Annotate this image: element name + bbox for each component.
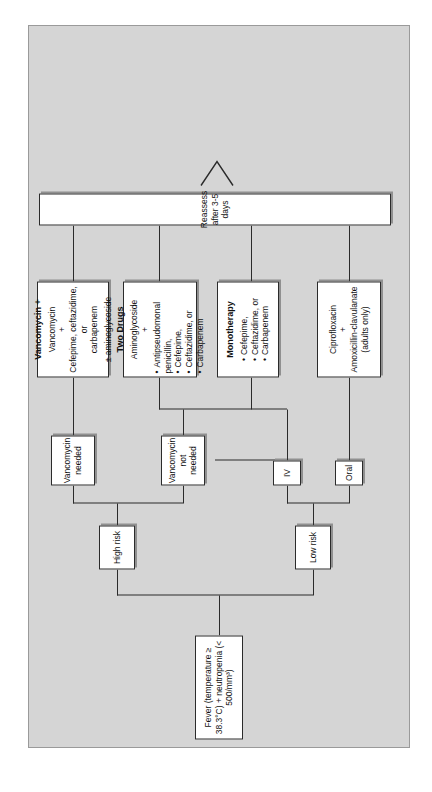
- node-vancomycin-not-needed-line1: Vancomycin: [167, 437, 178, 483]
- connector-route-split-vertical: [287, 502, 349, 503]
- node-vancomycin-plus-line4: carbapenem: [89, 305, 100, 352]
- node-monotherapy-bullet-0: Cefepime,: [239, 297, 250, 360]
- page-canvas: Fever (temperature ≥ 38.3°C) + neutropen…: [0, 0, 432, 792]
- node-vancomycin-plus-line2: +: [57, 327, 68, 332]
- flowchart-stage: Fever (temperature ≥ 38.3°C) + neutropen…: [29, 26, 409, 747]
- connector-to-vanco-needed: [73, 485, 74, 503]
- node-low-risk-label: Low risk: [308, 531, 319, 562]
- figure-panel: Fever (temperature ≥ 38.3°C) + neutropen…: [28, 25, 410, 748]
- connector-vancomycinplus-to-reassess: [73, 225, 74, 281]
- node-oral-label: Oral: [344, 464, 355, 480]
- connector-to-oral: [349, 485, 350, 503]
- connector-vanco-split-vertical: [73, 502, 183, 503]
- connector-vanconotneeded-out: [183, 409, 184, 435]
- node-two-drugs-bullet-2: Ceftazidime, or: [184, 285, 195, 373]
- connector-to-low-risk: [313, 569, 314, 595]
- node-monotherapy[interactable]: Monotherapy Cefepime, Ceftazidime, or Ca…: [217, 281, 279, 377]
- node-reassess-label: Reassess after 3-5 days: [199, 190, 231, 227]
- node-vancomycin-plus-title: Vancomycin +: [33, 299, 44, 359]
- connector-twodrugs-to-reassess: [159, 225, 160, 281]
- node-oral[interactable]: Oral: [335, 460, 363, 485]
- connector-lowrisk-out: [313, 503, 314, 525]
- connector-cipro-to-reassess: [349, 225, 350, 281]
- node-vancomycin-plus-line1: Vancomycin: [47, 306, 58, 352]
- connector-oral-to-cipro: [349, 377, 350, 460]
- reassess-arrow-icon: [197, 157, 237, 187]
- connector-iv-to-therapy: [251, 408, 287, 409]
- node-vancomycin-not-needed-line2: not needed: [178, 439, 199, 481]
- node-ciprofloxacin-line3: Amoxicillin-clavulanate: [349, 286, 360, 372]
- connector-to-monotherapy: [251, 377, 252, 409]
- node-monotherapy-title: Monotherapy: [225, 301, 236, 358]
- node-start[interactable]: Fever (temperature ≥ 38.3°C) + neutropen…: [195, 635, 243, 739]
- connector-to-iv: [287, 485, 288, 503]
- node-two-drugs-bullet-3: Carbapenem: [195, 285, 206, 373]
- connector-to-high-risk: [117, 569, 118, 595]
- node-vancomycin-not-needed[interactable]: Vancomycin not needed: [161, 435, 205, 485]
- node-ciprofloxacin-line1: Ciprofloxacin: [328, 304, 339, 353]
- node-high-risk-label: High risk: [112, 530, 123, 563]
- connector-start-to-split: [219, 595, 220, 635]
- node-reassess[interactable]: Reassess after 3-5 days: [39, 193, 391, 225]
- node-ciprofloxacin-line4: (adults only): [360, 306, 371, 352]
- node-iv[interactable]: IV: [273, 460, 301, 485]
- node-high-risk[interactable]: High risk: [99, 525, 135, 569]
- node-two-drugs-bullet-1: Cefepime,: [173, 285, 184, 373]
- node-ciprofloxacin-line2: +: [338, 327, 349, 332]
- node-two-drugs-line2: +: [140, 327, 151, 332]
- node-monotherapy-bullet-1: Ceftazidime, or: [250, 297, 261, 360]
- node-vancomycin-needed[interactable]: Vancomycin needed: [51, 435, 95, 485]
- node-vancomycin-plus-line5: ± aminoglycoside: [103, 296, 114, 362]
- node-start-label: Fever (temperature ≥ 38.3°C) + neutropen…: [203, 639, 235, 735]
- connector-vanconeeded-to-vancomycinplus: [73, 377, 74, 435]
- node-monotherapy-bullets: Cefepime, Ceftazidime, or Carbapenem: [239, 297, 271, 360]
- connector-highrisk-out: [117, 503, 118, 525]
- node-two-drugs-bullets: Antipseudomonal penicillin, Cefepime, Ce…: [152, 285, 205, 373]
- node-ciprofloxacin[interactable]: Ciprofloxacin + Amoxicillin-clavulanate …: [317, 281, 381, 377]
- node-iv-label: IV: [282, 468, 293, 476]
- connector-therapy-split-vertical: [159, 408, 251, 409]
- node-two-drugs[interactable]: Two Drugs Aminoglycoside + Antipseudomon…: [123, 281, 197, 377]
- connector-monotherapy-to-reassess: [251, 225, 252, 281]
- node-low-risk[interactable]: Low risk: [295, 525, 331, 569]
- connector-iv-out: [287, 409, 288, 460]
- connector-to-vanco-not-needed: [183, 485, 184, 503]
- node-monotherapy-bullet-2: Carbapenem: [260, 297, 271, 360]
- node-vancomycin-needed-line1: Vancomycin: [62, 437, 73, 483]
- connector-to-two-drugs: [159, 377, 160, 409]
- node-vancomycin-needed-line2: needed: [73, 446, 84, 474]
- node-vancomycin-plus-line3: Cefepime, ceftazidime, or: [68, 285, 89, 373]
- node-vancomycin-plus[interactable]: Vancomycin + Vancomycin + Cefepime, ceft…: [37, 281, 109, 377]
- connector-risk-split-vertical: [117, 594, 313, 595]
- node-two-drugs-bullet-0: Antipseudomonal penicillin,: [152, 285, 173, 373]
- connector-vanconotneeded-to-iv: [215, 459, 275, 460]
- node-two-drugs-title: Two Drugs: [115, 306, 126, 352]
- node-two-drugs-line1: Aminoglycoside: [129, 299, 140, 359]
